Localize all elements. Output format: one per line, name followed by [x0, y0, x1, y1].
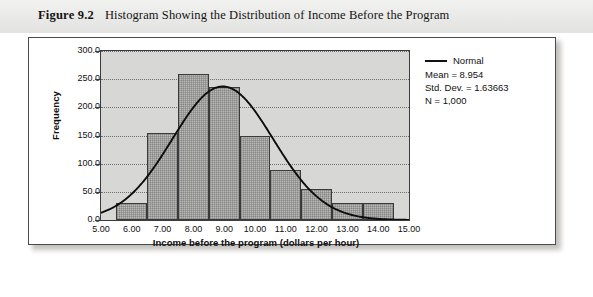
y-axis-tick-label: 150.0 — [54, 130, 100, 140]
x-axis-ticks: 5.006.007.008.009.0010.0011.0012.0013.00… — [100, 224, 412, 238]
histogram-chart: Frequency 0.050.0100.0150.0200.0250.0300… — [29, 38, 557, 246]
y-axis-ticks: 0.050.0100.0150.0200.0250.0300.0 — [48, 50, 100, 221]
figure-caption: Figure 9.2Histogram Showing the Distribu… — [38, 8, 449, 23]
figure-panel: Frequency 0.050.0100.0150.0200.0250.0300… — [28, 37, 556, 245]
plot-area — [100, 50, 410, 221]
y-axis-tick-label: 250.0 — [54, 73, 100, 83]
figure-caption-band: Figure 9.2Histogram Showing the Distribu… — [0, 0, 593, 33]
plot-inner — [101, 51, 409, 220]
normal-curve-line-icon — [425, 60, 447, 62]
figure-number: Figure 9.2 — [38, 8, 94, 22]
figure-title: Histogram Showing the Distribution of In… — [105, 8, 449, 22]
legend-mean: Mean = 8.954 — [425, 68, 553, 81]
legend-std-dev: Std. Dev. = 1.63663 — [425, 81, 553, 94]
y-axis-tick-label: 0.0 — [54, 214, 100, 224]
y-axis-tick-label: 300.0 — [54, 45, 100, 55]
chart-legend: Normal Mean = 8.954 Std. Dev. = 1.63663 … — [425, 54, 553, 107]
legend-series-label: Normal — [453, 54, 484, 67]
y-axis-tick-label: 100.0 — [54, 158, 100, 168]
y-axis-tick-label: 50.0 — [54, 186, 100, 196]
x-axis-title: Income before the program (dollars per h… — [100, 237, 412, 248]
legend-n: N = 1,000 — [425, 94, 553, 107]
normal-curve — [101, 51, 409, 220]
legend-series-row: Normal — [425, 54, 553, 67]
y-axis-tick-label: 200.0 — [54, 101, 100, 111]
x-axis-tick-label: 15.00 — [389, 224, 429, 234]
